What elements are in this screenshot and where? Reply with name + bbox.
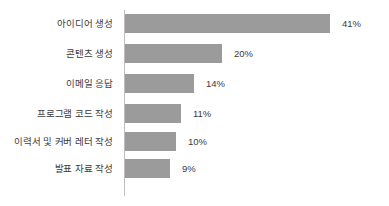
bar-row: 이력서 및 커버 레터 작성 10% (0, 132, 389, 151)
bar-chart: 아이디어 생성 41% 콘텐츠 생성 20% 이메일 응답 14% 프로그램 코… (0, 0, 389, 206)
category-label: 이메일 응답 (0, 74, 113, 93)
bar-value-label: 9% (182, 159, 196, 178)
bar-value-label: 11% (193, 104, 211, 123)
category-label: 콘텐츠 생성 (0, 44, 113, 63)
bar (125, 132, 176, 151)
bar (125, 104, 181, 123)
bar-row: 발표 자료 작성 9% (0, 159, 389, 178)
bar-value-label: 41% (342, 14, 361, 33)
bar-value-label: 14% (206, 74, 225, 93)
bar-value-label: 20% (234, 44, 253, 63)
bar-row: 이메일 응답 14% (0, 74, 389, 93)
bar (125, 44, 222, 63)
category-label: 발표 자료 작성 (0, 159, 113, 178)
category-label: 이력서 및 커버 레터 작성 (0, 132, 113, 151)
bar-value-label: 10% (188, 132, 207, 151)
bar (125, 14, 330, 33)
bar-row: 콘텐츠 생성 20% (0, 44, 389, 63)
bar (125, 74, 194, 93)
bar-row: 프로그램 코드 작성 11% (0, 104, 389, 123)
bar-row: 아이디어 생성 41% (0, 14, 389, 33)
category-label: 프로그램 코드 작성 (0, 104, 113, 123)
category-label: 아이디어 생성 (0, 14, 113, 33)
bar (125, 159, 170, 178)
